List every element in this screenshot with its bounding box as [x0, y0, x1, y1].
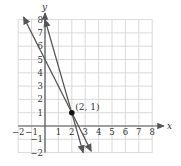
y-tick-label: 3: [38, 81, 43, 91]
y-tick-label: 5: [38, 55, 43, 65]
x-axis-label: x: [167, 121, 172, 131]
y-tick-label: 8: [38, 15, 43, 25]
x-tick-label: 7: [136, 127, 141, 137]
y-axis-label: y: [41, 2, 48, 12]
point-label: (2, 1): [75, 102, 99, 112]
y-tick-label: 7: [38, 28, 43, 38]
coordinate-plane: xy −2−112345678−2−112345678 (2, 1): [0, 0, 181, 166]
x-tick-label: 4: [96, 127, 101, 137]
y-tick-label: −2: [30, 148, 43, 158]
y-tick-label: −1: [30, 134, 43, 144]
x-tick-label: 2: [69, 127, 74, 137]
points: (2, 1): [69, 102, 100, 115]
y-tick-label: 2: [38, 94, 43, 104]
x-tick-label: 1: [56, 127, 61, 137]
x-tick-label: 5: [109, 127, 114, 137]
y-tick-label: 4: [38, 68, 43, 78]
x-tick-label: 6: [123, 127, 128, 137]
y-tick-label: 1: [38, 108, 43, 118]
x-tick-label: −2: [12, 127, 25, 137]
x-tick-label: 8: [149, 127, 154, 137]
intersection-point: [69, 110, 75, 116]
